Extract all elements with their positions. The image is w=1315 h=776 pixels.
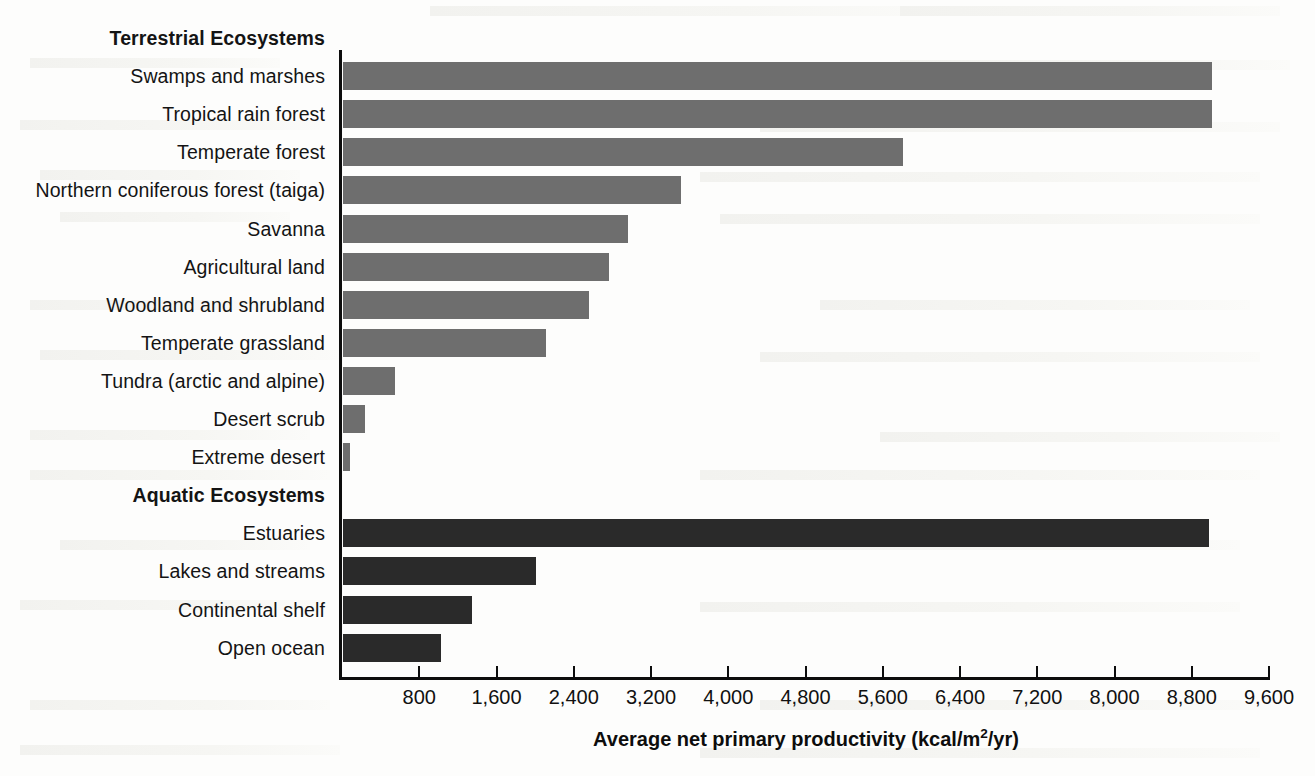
chart-bar-row: Savanna: [0, 210, 1315, 248]
x-tick: [1268, 666, 1270, 678]
chart-group-heading-row: Terrestrial Ecosystems: [0, 19, 1315, 57]
category-label: Temperate grassland: [0, 324, 325, 362]
category-label: Swamps and marshes: [0, 57, 325, 95]
bar-swamps-and-marshes: [343, 62, 1212, 90]
axis-title-superscript: 2: [980, 726, 988, 741]
x-tick: [805, 666, 807, 678]
category-label: Extreme desert: [0, 438, 325, 476]
bar-temperate-grassland: [343, 329, 546, 357]
category-label: Tropical rain forest: [0, 95, 325, 133]
page-bleed-artifact: [900, 6, 1280, 16]
category-label: Tundra (arctic and alpine): [0, 362, 325, 400]
category-label: Savanna: [0, 210, 325, 248]
x-tick: [882, 666, 884, 678]
chart-bar-row: Northern coniferous forest (taiga): [0, 171, 1315, 209]
x-tick: [418, 666, 420, 678]
chart-bar-row: Estuaries: [0, 514, 1315, 552]
chart-bar-row: Swamps and marshes: [0, 57, 1315, 95]
category-label: Continental shelf: [0, 591, 325, 629]
category-label: Woodland and shrubland: [0, 286, 325, 324]
bar-tundra-arctic-and-alpine: [343, 367, 395, 395]
page-bleed-artifact: [30, 700, 330, 710]
chart-bar-row: Continental shelf: [0, 591, 1315, 629]
category-label: Lakes and streams: [0, 552, 325, 590]
group-heading-label: Terrestrial Ecosystems: [0, 19, 325, 57]
bar-open-ocean: [343, 634, 441, 662]
x-tick: [1036, 666, 1038, 678]
category-label: Open ocean: [0, 629, 325, 667]
x-tick: [727, 666, 729, 678]
y-axis-line: [339, 50, 342, 679]
chart-bar-row: Tropical rain forest: [0, 95, 1315, 133]
bar-tropical-rain-forest: [343, 100, 1212, 128]
page-bleed-artifact: [20, 745, 340, 755]
chart-bar-row: Agricultural land: [0, 248, 1315, 286]
x-tick: [496, 666, 498, 678]
bar-woodland-and-shrubland: [343, 291, 589, 319]
bar-desert-scrub: [343, 405, 365, 433]
bar-northern-coniferous-forest-taiga: [343, 176, 681, 204]
chart-bar-row: Desert scrub: [0, 400, 1315, 438]
x-tick: [959, 666, 961, 678]
bar-estuaries: [343, 519, 1209, 547]
x-tick: [1191, 666, 1193, 678]
chart-bar-row: Extreme desert: [0, 438, 1315, 476]
x-tick: [1114, 666, 1116, 678]
chart-group-heading-row: Aquatic Ecosystems: [0, 476, 1315, 514]
chart-bar-row: Temperate forest: [0, 133, 1315, 171]
chart-bar-row: Woodland and shrubland: [0, 286, 1315, 324]
chart-bar-row: Temperate grassland: [0, 324, 1315, 362]
bar-savanna: [343, 215, 628, 243]
page-bleed-artifact: [430, 6, 950, 16]
group-heading-label: Aquatic Ecosystems: [0, 476, 325, 514]
x-tick: [650, 666, 652, 678]
category-label: Estuaries: [0, 514, 325, 552]
bar-continental-shelf: [343, 596, 472, 624]
category-label: Desert scrub: [0, 400, 325, 438]
chart-bar-row: Lakes and streams: [0, 552, 1315, 590]
category-label: Temperate forest: [0, 133, 325, 171]
bar-extreme-desert: [343, 443, 350, 471]
chart-page: Terrestrial EcosystemsSwamps and marshes…: [0, 0, 1315, 776]
chart-bar-row: Tundra (arctic and alpine): [0, 362, 1315, 400]
chart-bar-row: Open ocean: [0, 629, 1315, 667]
bar-lakes-and-streams: [343, 557, 536, 585]
bar-agricultural-land: [343, 253, 609, 281]
x-axis-title: Average net primary productivity (kcal/m…: [341, 728, 1271, 751]
x-tick: [573, 666, 575, 678]
x-tick-label: 9,600: [1224, 686, 1314, 709]
category-label: Northern coniferous forest (taiga): [0, 171, 325, 209]
category-label: Agricultural land: [0, 248, 325, 286]
bar-temperate-forest: [343, 138, 903, 166]
